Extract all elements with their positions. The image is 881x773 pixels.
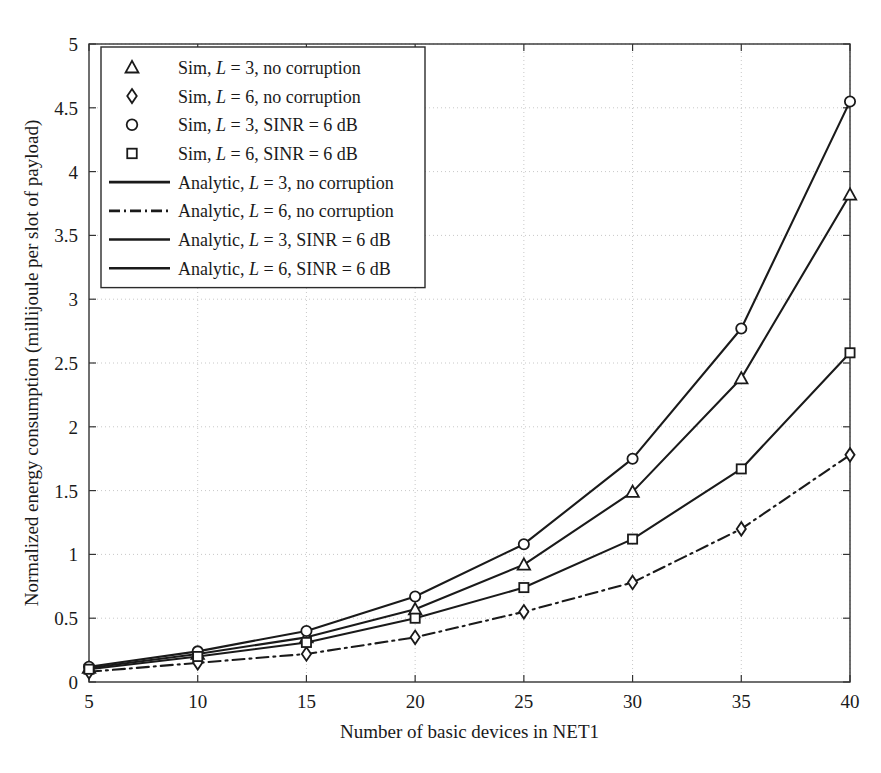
legend-box (101, 47, 425, 288)
x-tick-label: 20 (406, 691, 425, 712)
x-tick-label: 40 (841, 691, 860, 712)
data-point-circle (845, 96, 855, 106)
legend-label: Sim, L = 6, no corruption (178, 87, 361, 107)
x-tick-label: 35 (732, 691, 751, 712)
legend-label: Sim, L = 6, SINR = 6 dB (178, 144, 358, 164)
y-tick-label: 0.5 (54, 608, 78, 629)
y-tick-label: 2 (69, 417, 79, 438)
y-tick-label: 3 (69, 289, 79, 310)
data-point-circle (410, 591, 420, 601)
legend-label: Sim, L = 3, no corruption (178, 58, 361, 78)
legend-label: Analytic, L = 3, no corruption (178, 173, 394, 193)
y-tick-label: 2.5 (54, 353, 78, 374)
data-point-square (628, 534, 637, 543)
data-point-square (411, 614, 420, 623)
data-point-circle (519, 539, 529, 549)
legend-marker-circle (127, 119, 138, 130)
x-tick-label: 5 (84, 691, 94, 712)
chart-legend: Sim, L = 3, no corruptionSim, L = 6, no … (101, 47, 425, 288)
y-tick-label: 3.5 (54, 225, 78, 246)
data-point-circle (301, 626, 311, 636)
legend-label: Analytic, L = 3, SINR = 6 dB (178, 230, 391, 250)
x-tick-label: 15 (297, 691, 316, 712)
data-point-square (193, 652, 202, 661)
legend-marker-square (127, 149, 137, 159)
y-tick-label: 1.5 (54, 481, 78, 502)
legend-label: Sim, L = 3, SINR = 6 dB (178, 115, 358, 135)
legend-label: Analytic, L = 6, no corruption (178, 201, 394, 221)
y-tick-label: 1 (69, 544, 79, 565)
x-axis-title: Number of basic devices in NET1 (340, 721, 599, 742)
legend-label: Analytic, L = 6, SINR = 6 dB (178, 259, 391, 279)
y-tick-label: 5 (69, 34, 79, 55)
x-tick-label: 30 (623, 691, 642, 712)
line-chart: 00.511.522.533.544.55510152025303540 Num… (0, 0, 881, 773)
data-point-square (84, 665, 93, 674)
chart-figure: 00.511.522.533.544.55510152025303540 Num… (0, 0, 881, 773)
data-point-circle (736, 323, 746, 333)
data-point-square (845, 348, 854, 357)
x-tick-label: 25 (514, 691, 533, 712)
data-point-circle (627, 454, 637, 464)
y-tick-label: 0 (69, 672, 79, 693)
data-point-square (737, 464, 746, 473)
data-point-square (302, 638, 311, 647)
y-tick-label: 4 (69, 162, 79, 183)
x-tick-label: 10 (188, 691, 207, 712)
data-point-square (519, 583, 528, 592)
y-tick-label: 4.5 (54, 98, 78, 119)
y-axis-title: Normalized energy consumption (millijoul… (21, 120, 43, 607)
